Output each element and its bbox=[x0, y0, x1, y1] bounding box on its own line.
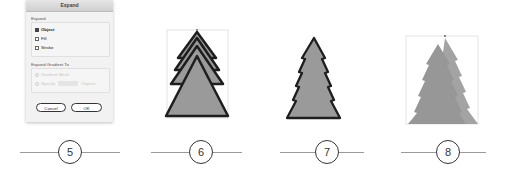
step-number: 5 bbox=[58, 140, 82, 164]
step-6-marker: 6 bbox=[151, 140, 251, 164]
divider-line bbox=[459, 152, 486, 153]
step-number: 7 bbox=[315, 140, 339, 164]
expand-group-label: Expand bbox=[31, 16, 46, 21]
expand-dialog: Expand Expand Object Fill Stroke Expand … bbox=[26, 0, 113, 122]
object-label: Object bbox=[41, 27, 54, 32]
gradient-group-label: Expand Gradient To bbox=[31, 62, 69, 67]
step-number: 6 bbox=[189, 140, 213, 164]
united-tree-art bbox=[280, 34, 350, 124]
step-number: 8 bbox=[436, 140, 460, 164]
step-7-marker: 7 bbox=[277, 140, 377, 164]
gradient-mesh-radio[interactable] bbox=[35, 73, 39, 77]
divider-line bbox=[81, 152, 120, 153]
object-option[interactable]: Object bbox=[35, 27, 54, 32]
divider-line bbox=[401, 152, 436, 153]
step-5-marker: 5 bbox=[20, 140, 120, 164]
specify-objects-input[interactable] bbox=[58, 81, 78, 86]
object-checkbox[interactable] bbox=[35, 28, 39, 32]
gradient-mesh-label: Gradient Mesh bbox=[41, 72, 69, 77]
fill-checkbox[interactable] bbox=[35, 37, 39, 41]
stroke-label: Stroke bbox=[41, 45, 53, 50]
divider-line bbox=[20, 152, 58, 153]
specify-label: Specify bbox=[41, 81, 55, 86]
stroke-option[interactable]: Stroke bbox=[35, 45, 53, 50]
stroke-checkbox[interactable] bbox=[35, 46, 39, 50]
divider-line bbox=[280, 152, 315, 153]
ok-button[interactable]: OK bbox=[71, 103, 102, 112]
cancel-button[interactable]: Cancel bbox=[36, 103, 66, 112]
fill-option[interactable]: Fill bbox=[35, 36, 47, 41]
specify-option[interactable]: Specify Objects bbox=[35, 81, 96, 86]
expanded-flat-trees-art bbox=[400, 30, 490, 128]
divider-line bbox=[151, 152, 189, 153]
dialog-title: Expand bbox=[26, 0, 113, 12]
objects-label: Objects bbox=[81, 81, 96, 86]
divider-line bbox=[338, 152, 364, 153]
divider-line bbox=[212, 152, 242, 153]
expand-group: Object Fill Stroke bbox=[31, 22, 110, 57]
stacked-triangles-tree-art bbox=[160, 26, 240, 124]
fill-label: Fill bbox=[41, 36, 47, 41]
step-8-marker: 8 bbox=[398, 140, 498, 164]
gradient-mesh-option[interactable]: Gradient Mesh bbox=[35, 72, 69, 77]
gradient-group: Gradient Mesh Specify Objects bbox=[31, 68, 110, 93]
specify-radio[interactable] bbox=[35, 82, 39, 86]
